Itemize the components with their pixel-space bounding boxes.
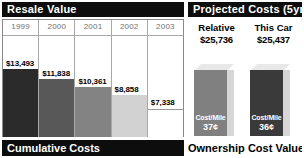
relative-cost-per-mile-value: 37¢ (194, 122, 227, 133)
resale-value-title: Resale Value (2, 2, 184, 17)
column-divider (75, 35, 110, 36)
relative-label: Relative (188, 22, 245, 34)
bar-value-1999: $13,493 (5, 59, 35, 68)
year-label-2003: 2003 (148, 22, 183, 31)
year-label-2001: 2001 (75, 22, 110, 31)
relative-cost-per-mile-label: Cost/Mile (194, 113, 227, 122)
bar-side-face (283, 70, 290, 136)
projected-costs-panel: Projected Costs (5yr) Relative $25,736 T… (186, 0, 304, 158)
column-divider (3, 35, 38, 36)
this-car-cost-per-mile-value: 36¢ (250, 122, 283, 133)
cumulative-costs-footer: Cumulative Costs (2, 140, 184, 156)
year-label-1999: 1999 (3, 22, 38, 31)
year-label-2000: 2000 (39, 22, 74, 31)
this-car-label: This Car (245, 22, 302, 34)
projected-bar-relative: Cost/Mile 37¢ (194, 64, 234, 136)
resale-column-1999: 1999 $13,493 (3, 20, 39, 137)
column-divider (39, 35, 74, 36)
relative-amount: $25,736 (188, 34, 245, 46)
projected-costs-chart: Cost/Mile 37¢ Cost/Mile 36¢ (188, 53, 302, 136)
resale-value-panel: Resale Value 1999 $13,493 2000 $11,838 2… (0, 0, 186, 158)
resale-bar-2000 (39, 79, 74, 137)
resale-column-2001: 2001 $10,361 (75, 20, 111, 137)
bar-value-2003: $7,338 (150, 98, 176, 107)
projected-costs-relative-header: Relative $25,736 (188, 22, 245, 48)
this-car-amount: $25,437 (245, 34, 302, 46)
bar-value-2000: $11,838 (41, 69, 71, 78)
column-divider (148, 35, 183, 36)
year-label-2002: 2002 (112, 22, 147, 31)
projected-costs-thiscar-header: This Car $25,437 (245, 22, 302, 48)
resale-column-2002: 2002 $8,858 (112, 20, 148, 137)
bar-value-2001: $10,361 (77, 77, 107, 86)
resale-value-chart: 1999 $13,493 2000 $11,838 2001 $10,361 2… (2, 19, 184, 137)
relative-cost-per-mile: Cost/Mile 37¢ (194, 113, 227, 133)
resale-bar-2002 (112, 95, 147, 137)
resale-bar-2001 (75, 87, 110, 137)
projected-bar-this-car: Cost/Mile 36¢ (250, 64, 290, 136)
ownership-cost-widget: Resale Value 1999 $13,493 2000 $11,838 2… (0, 0, 304, 158)
bar-side-face (227, 70, 234, 136)
column-divider (112, 35, 147, 36)
projected-costs-title: Projected Costs (5yr) (188, 2, 302, 17)
bar-value-2002: $8,858 (114, 85, 140, 94)
projected-costs-header-row: Relative $25,736 This Car $25,437 (188, 22, 302, 48)
ownership-cost-value-footer: Ownership Cost Value (188, 140, 302, 156)
resale-column-2003: 2003 $7,338 (148, 20, 183, 137)
resale-column-2000: 2000 $11,838 (39, 20, 75, 137)
resale-bar-1999 (3, 69, 38, 137)
resale-bar-2003 (148, 109, 183, 137)
this-car-cost-per-mile-label: Cost/Mile (250, 113, 283, 122)
this-car-cost-per-mile: Cost/Mile 36¢ (250, 113, 283, 133)
